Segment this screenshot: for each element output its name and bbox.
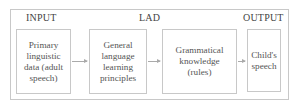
arrow-2-icon bbox=[148, 61, 160, 62]
arrow-3-icon bbox=[238, 61, 245, 62]
node-childs-speech: Child's speech bbox=[247, 29, 281, 92]
node-primary-data-text: Primary linguistic data (adult speech) bbox=[24, 40, 63, 84]
node-general-principles: General language learning principles bbox=[89, 29, 147, 94]
node-general-principles-text: General language learning principles bbox=[100, 40, 136, 84]
output-label: OUTPUT bbox=[243, 12, 284, 23]
input-label: INPUT bbox=[26, 12, 56, 23]
node-childs-speech-text: Child's speech bbox=[251, 50, 277, 72]
lad-label: LAD bbox=[139, 12, 160, 23]
arrow-1-icon bbox=[72, 61, 87, 62]
node-grammatical-knowledge-text: Grammatical knowledge (rules) bbox=[176, 45, 224, 78]
node-primary-data: Primary linguistic data (adult speech) bbox=[16, 29, 71, 94]
node-grammatical-knowledge: Grammatical knowledge (rules) bbox=[162, 29, 237, 94]
